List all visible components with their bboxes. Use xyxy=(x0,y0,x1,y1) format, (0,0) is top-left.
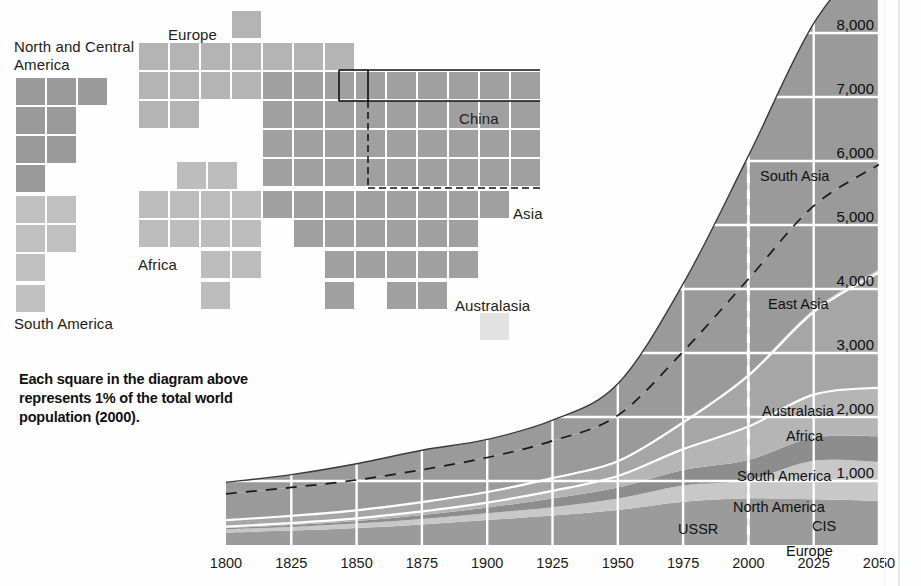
series-label-africa: Africa xyxy=(786,428,823,444)
x-axis-label-1975: 1975 xyxy=(653,555,713,571)
series-label-cis: CIS xyxy=(812,518,836,534)
y-axis-label-7000: 7,000 xyxy=(818,80,874,97)
series-label-europe: Europe xyxy=(786,543,833,559)
x-axis-label-1925: 1925 xyxy=(523,555,583,571)
page-edge-rule-inner xyxy=(884,0,885,586)
x-axis-label-1825: 1825 xyxy=(261,555,321,571)
page-edge-rule xyxy=(898,0,900,586)
series-label-north-america: North America xyxy=(733,499,825,515)
y-axis-label-4000: 4,000 xyxy=(818,272,874,289)
series-label-australasia: Australasia xyxy=(762,403,834,419)
y-axis-label-8000: 8,000 xyxy=(818,16,874,33)
series-label-east-asia: East Asia xyxy=(768,296,828,312)
x-axis-label-2050: 2050 xyxy=(849,555,909,571)
x-axis-label-1950: 1950 xyxy=(588,555,648,571)
y-axis-label-3000: 3,000 xyxy=(818,336,874,353)
x-axis-label-1900: 1900 xyxy=(457,555,517,571)
series-label-south-america: South America xyxy=(737,468,831,484)
world-population-area-chart: 1,0002,0003,0004,0005,0006,0007,0008,000… xyxy=(0,0,921,586)
x-axis-label-2000: 2000 xyxy=(718,555,778,571)
series-label-south-asia: South Asia xyxy=(760,168,829,184)
y-axis-label-6000: 6,000 xyxy=(818,144,874,161)
infographic-page: North and Central AmericaSouth AmericaEu… xyxy=(0,0,921,586)
y-axis-label-5000: 5,000 xyxy=(818,208,874,225)
x-axis-label-1850: 1850 xyxy=(327,555,387,571)
series-label-ussr: USSR xyxy=(678,521,718,537)
x-axis-label-1800: 1800 xyxy=(196,555,256,571)
x-axis-label-1875: 1875 xyxy=(392,555,452,571)
